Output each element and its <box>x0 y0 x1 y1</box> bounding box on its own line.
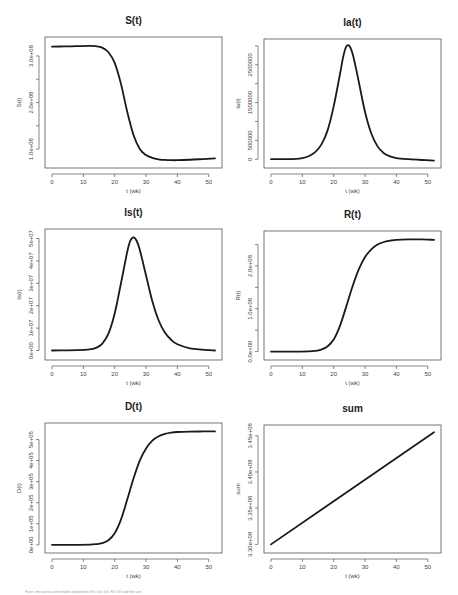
data-line-Is <box>52 237 215 350</box>
chart-panel-Ia: Ia(t)01020304050t (wk)050000015000002500… <box>235 17 441 194</box>
y-axis-label: Ia(t) <box>235 98 241 109</box>
x-axis: 01020304050t (wk) <box>269 366 431 386</box>
x-tick-label: 10 <box>80 179 87 185</box>
x-axis-label: t (wk) <box>126 380 141 386</box>
figure-panel-grid: S(t)01020304050t (wk)1.0e+082.0e+083.0e+… <box>0 0 458 595</box>
y-tick-label: 3.40e+08 <box>247 459 253 485</box>
x-axis: 01020304050t (wk) <box>50 366 212 386</box>
x-tick-label: 0 <box>50 179 54 185</box>
plot-frame <box>45 423 222 553</box>
x-tick-label: 20 <box>330 371 337 377</box>
data-line-sum <box>271 432 434 544</box>
data-line-D <box>52 431 215 544</box>
y-tick-label: 3e+07 <box>28 274 34 292</box>
y-tick-label: 1e+07 <box>28 319 34 337</box>
y-axis-label: D(t) <box>16 483 22 493</box>
data-line-Ia <box>271 45 434 160</box>
x-tick-label: 30 <box>143 371 150 377</box>
data-line-R <box>271 239 434 351</box>
y-axis: 1.0e+082.0e+083.0e+08S(t) <box>16 44 39 160</box>
x-tick-label: 0 <box>50 564 54 570</box>
y-tick-label: 0e+00 <box>28 536 34 554</box>
x-tick-label: 0 <box>269 564 273 570</box>
y-tick-label: 2e+05 <box>28 494 34 512</box>
y-tick-label: 2e+07 <box>28 297 34 315</box>
x-tick-label: 50 <box>205 564 212 570</box>
x-tick-label: 20 <box>111 179 118 185</box>
x-tick-label: 20 <box>330 179 337 185</box>
y-tick-label: 3.35e+08 <box>247 495 253 521</box>
x-tick-label: 10 <box>80 371 87 377</box>
x-tick-label: 0 <box>50 371 54 377</box>
y-tick-label: 1.0e+08 <box>247 297 253 320</box>
x-axis-label: t (wk) <box>345 188 360 194</box>
x-tick-label: 10 <box>299 179 306 185</box>
y-axis-label: S(t) <box>16 98 22 108</box>
x-tick-label: 40 <box>174 564 181 570</box>
y-tick-label: 0 <box>247 157 253 161</box>
x-tick-label: 40 <box>174 179 181 185</box>
y-axis: 3.30e+083.35e+083.40e+083.45e+08sum <box>235 423 258 557</box>
y-axis: 0e+001e+052e+053e+054e+055e+05D(t) <box>16 430 39 553</box>
x-tick-label: 0 <box>269 179 273 185</box>
x-axis: 01020304050t (wk) <box>269 559 431 579</box>
x-tick-label: 30 <box>362 564 369 570</box>
x-tick-label: 50 <box>205 179 212 185</box>
data-line-S <box>52 46 215 160</box>
plot-frame <box>264 39 441 168</box>
chart-panel-D: D(t)01020304050t (wk)0e+001e+052e+053e+0… <box>16 401 222 579</box>
y-tick-label: 4e+05 <box>28 452 34 470</box>
y-axis: 0.0e+001.0e+082.0e+08R(t) <box>235 245 258 363</box>
x-tick-label: 30 <box>143 564 150 570</box>
plot-frame <box>45 229 222 360</box>
y-tick-label: 0e+00 <box>28 341 34 359</box>
x-axis-label: t (wk) <box>345 380 360 386</box>
chart-title: Is(t) <box>124 207 142 218</box>
y-tick-label: 3.0e+08 <box>28 44 34 67</box>
x-tick-label: 30 <box>362 179 369 185</box>
x-tick-label: 20 <box>330 564 337 570</box>
x-axis-label: t (wk) <box>126 573 141 579</box>
x-tick-label: 40 <box>393 371 400 377</box>
x-tick-label: 30 <box>362 371 369 377</box>
x-axis-label: t (wk) <box>126 188 141 194</box>
chart-title: R(t) <box>344 209 361 220</box>
chart-title: Ia(t) <box>343 17 361 28</box>
y-tick-label: 3.30e+08 <box>247 531 253 557</box>
y-axis-label: sum <box>235 483 241 494</box>
chart-title: S(t) <box>125 15 142 26</box>
y-tick-label: 500000 <box>247 130 253 151</box>
y-tick-label: 4e+07 <box>28 252 34 270</box>
chart-panel-R: R(t)01020304050t (wk)0.0e+001.0e+082.0e+… <box>235 209 441 386</box>
y-axis-label: Is(t) <box>16 289 22 299</box>
chart-title: D(t) <box>125 401 142 412</box>
y-tick-label: 2.0e+08 <box>247 254 253 277</box>
x-tick-label: 10 <box>299 371 306 377</box>
x-tick-label: 50 <box>424 179 431 185</box>
y-tick-label: 2500000 <box>247 52 253 76</box>
x-tick-label: 50 <box>424 371 431 377</box>
y-tick-label: 1500000 <box>247 90 253 114</box>
x-tick-label: 40 <box>393 179 400 185</box>
y-tick-label: 0.0e+00 <box>247 340 253 363</box>
x-tick-label: 20 <box>111 371 118 377</box>
y-tick-label: 3e+05 <box>28 473 34 491</box>
plot-frame <box>264 231 441 360</box>
x-tick-label: 40 <box>393 564 400 570</box>
y-tick-label: 1.0e+08 <box>28 137 34 160</box>
x-tick-label: 40 <box>174 371 181 377</box>
x-tick-label: 50 <box>205 371 212 377</box>
y-tick-label: 2.0e+08 <box>28 91 34 114</box>
y-axis: 050000015000002500000Ia(t) <box>235 46 258 161</box>
x-axis-label: t (wk) <box>345 573 360 579</box>
figure-caption: Figure: time courses of the model compar… <box>25 590 445 593</box>
x-tick-label: 20 <box>111 564 118 570</box>
y-axis: 0e+001e+072e+073e+074e+075e+07Is(t) <box>16 229 39 359</box>
x-axis: 01020304050t (wk) <box>50 174 212 194</box>
x-axis: 01020304050t (wk) <box>269 174 431 194</box>
y-tick-label: 5e+05 <box>28 430 34 448</box>
chart-panel-S: S(t)01020304050t (wk)1.0e+082.0e+083.0e+… <box>16 15 222 194</box>
y-tick-label: 5e+07 <box>28 229 34 247</box>
chart-panel-sum: sum01020304050t (wk)3.30e+083.35e+083.40… <box>235 403 441 579</box>
x-tick-label: 50 <box>424 564 431 570</box>
